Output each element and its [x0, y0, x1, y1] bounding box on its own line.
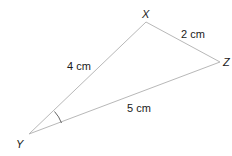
side-label-yz: 5 cm	[127, 102, 151, 114]
side-label-xy: 4 cm	[67, 60, 91, 72]
vertex-label-x: X	[141, 8, 150, 20]
angle-arc-y	[55, 112, 62, 124]
vertex-label-y: Y	[16, 138, 24, 150]
side-label-xz: 2 cm	[181, 28, 205, 40]
triangle-diagram: X Z Y 4 cm 2 cm 5 cm	[0, 0, 232, 156]
vertex-label-z: Z	[222, 56, 231, 68]
